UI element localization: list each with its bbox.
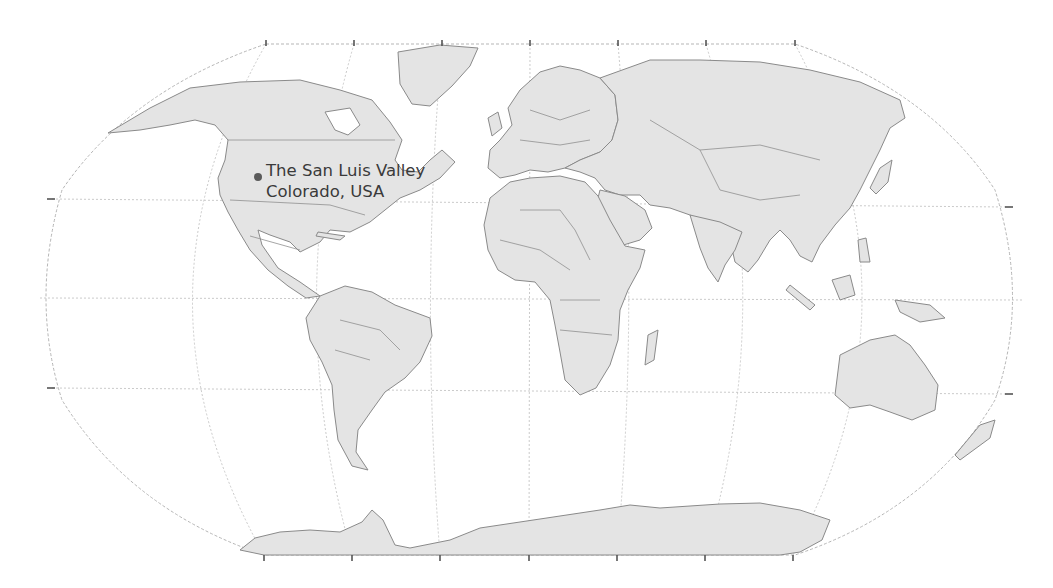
greenland	[398, 45, 478, 106]
uk	[488, 112, 502, 136]
new-guinea	[895, 300, 945, 322]
location-label-line2: Colorado, USA	[266, 181, 425, 202]
south-america	[306, 286, 432, 470]
sumatra	[786, 285, 815, 310]
madagascar	[645, 330, 658, 365]
location-marker	[254, 173, 262, 181]
australia	[835, 335, 938, 420]
philippines	[858, 238, 870, 262]
location-label-line1: The San Luis Valley	[266, 160, 425, 181]
world-map	[0, 0, 1053, 588]
borneo	[832, 275, 855, 300]
location-label: The San Luis Valley Colorado, USA	[266, 160, 425, 202]
new-zealand	[955, 420, 995, 460]
antarctica	[240, 503, 830, 555]
japan	[870, 160, 892, 194]
